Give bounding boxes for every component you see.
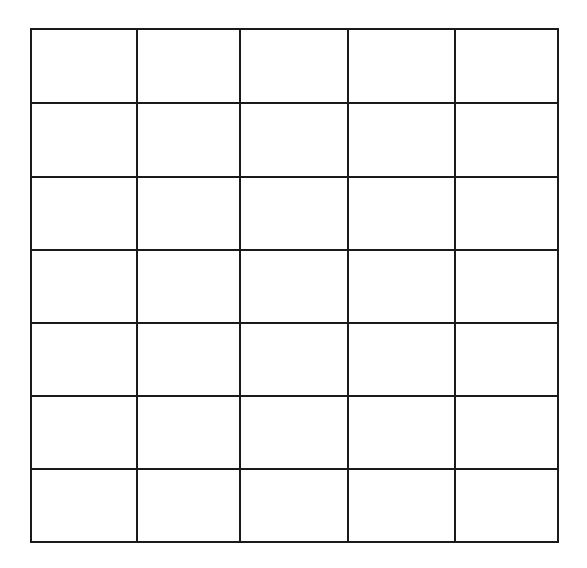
grid-cell	[32, 251, 136, 322]
grid-cell	[241, 397, 347, 468]
grid-cell	[138, 470, 239, 541]
grid-cell	[456, 104, 557, 176]
grid-cell	[138, 178, 239, 249]
grid-cell	[456, 178, 557, 249]
grid-cell	[138, 397, 239, 468]
grid-cell	[241, 324, 347, 395]
grid-col-line	[557, 28, 559, 543]
grid-cell	[32, 324, 136, 395]
empty-grid	[0, 0, 587, 568]
grid-cell	[349, 30, 454, 102]
grid-cell	[138, 30, 239, 102]
grid-cell	[32, 397, 136, 468]
grid-cell	[456, 470, 557, 541]
grid-cell	[32, 30, 136, 102]
grid-cell	[349, 104, 454, 176]
grid-cell	[349, 251, 454, 322]
grid-cell	[32, 178, 136, 249]
grid-cell	[138, 104, 239, 176]
grid-row-line	[30, 541, 559, 543]
grid-cell	[349, 178, 454, 249]
grid-cell	[138, 251, 239, 322]
grid-cell	[241, 470, 347, 541]
grid-cell	[241, 251, 347, 322]
grid-cell	[456, 251, 557, 322]
grid-cell	[456, 324, 557, 395]
grid-cell	[456, 30, 557, 102]
grid-cell	[241, 30, 347, 102]
grid-cell	[349, 470, 454, 541]
grid-cell	[32, 104, 136, 176]
grid-cell	[349, 397, 454, 468]
grid-cell	[349, 324, 454, 395]
grid-cell	[32, 470, 136, 541]
grid-cell	[241, 104, 347, 176]
grid-cell	[241, 178, 347, 249]
grid-cell	[456, 397, 557, 468]
grid-cell	[138, 324, 239, 395]
